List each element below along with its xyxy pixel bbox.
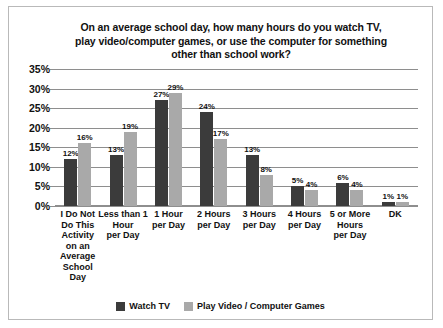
y-tick-label-25%: 25%	[29, 102, 50, 114]
legend-label-video-games: Play Video / Computer Games	[197, 301, 325, 311]
chart-legend: Watch TV Play Video / Computer Games	[9, 301, 432, 311]
bar-value-label: 16%	[77, 133, 93, 142]
bar-value-label: 1%	[383, 192, 395, 201]
chart-title-line-2: play video/computer games, or use the co…	[31, 35, 431, 49]
x-axis-label-line: on an	[49, 241, 106, 252]
x-axis-label-line: per Day	[94, 230, 151, 241]
bar	[200, 112, 213, 206]
bar	[214, 139, 227, 206]
bar	[246, 155, 259, 206]
bar-value-label: 13%	[244, 145, 260, 154]
bar	[305, 190, 318, 206]
bar	[291, 186, 304, 206]
bar-value-label: 24%	[199, 102, 215, 111]
bar-value-label: 27%	[153, 90, 169, 99]
bar-value-label: 13%	[108, 145, 124, 154]
bar-value-label: 19%	[122, 122, 138, 131]
y-tick-mark	[50, 69, 55, 70]
legend-swatch-icon-watch-tv	[116, 302, 125, 311]
bar-value-label: 29%	[167, 83, 183, 92]
bar-value-label: 4%	[351, 180, 363, 189]
bar	[110, 155, 123, 206]
bar	[396, 202, 409, 206]
y-tick-mark	[50, 206, 55, 207]
x-axis-label-line: Average	[49, 251, 106, 262]
bar	[336, 183, 349, 206]
y-tick-mark	[50, 89, 55, 90]
y-tick-mark	[50, 108, 55, 109]
bar-value-label: 1%	[397, 192, 409, 201]
bar	[260, 175, 273, 206]
chart-title-line-3: other than school work?	[31, 48, 431, 62]
bar-value-label: 6%	[337, 173, 349, 182]
gridline-0%	[55, 206, 418, 207]
y-tick-label-0%: 0%	[35, 200, 50, 212]
y-tick-label-5%: 5%	[35, 180, 50, 192]
bar-value-label: 5%	[292, 176, 304, 185]
x-axis-label: DK	[367, 209, 424, 220]
x-axis-label-line: School	[49, 262, 106, 273]
gridline-25%	[55, 108, 418, 109]
bar	[155, 100, 168, 206]
x-axis-label-line: per Day	[321, 230, 378, 241]
bar-value-label: 4%	[306, 180, 318, 189]
bar	[124, 132, 137, 206]
y-tick-label-30%: 30%	[29, 83, 50, 95]
x-axis-label-line: Hours	[321, 220, 378, 231]
bar-value-label: 17%	[213, 129, 229, 138]
y-tick-label-10%: 10%	[29, 161, 50, 173]
plot-area: 0%5%10%15%20%25%30%35% 12%16%13%19%27%29…	[55, 69, 418, 206]
bar	[78, 143, 91, 206]
bar	[169, 93, 182, 207]
legend-swatch-icon-video-games	[184, 302, 193, 311]
chart-frame: On an average school day, how many hours…	[8, 6, 433, 320]
y-tick-label-35%: 35%	[29, 63, 50, 75]
chart-title-line-1: On an average school day, how many hours…	[31, 21, 431, 35]
y-tick-mark	[50, 186, 55, 187]
gridline-35%	[55, 69, 418, 70]
y-tick-mark	[50, 128, 55, 129]
bar	[382, 202, 395, 206]
x-axis-label-line: Day	[49, 272, 106, 283]
bar-value-label: 12%	[63, 149, 79, 158]
y-tick-mark	[50, 167, 55, 168]
legend-item-video-games: Play Video / Computer Games	[184, 301, 325, 311]
bar	[64, 159, 77, 206]
legend-item-watch-tv: Watch TV	[116, 301, 170, 311]
bar-value-label: 8%	[260, 165, 272, 174]
y-tick-label-15%: 15%	[29, 141, 50, 153]
x-axis-label-line: DK	[367, 209, 424, 220]
legend-label-watch-tv: Watch TV	[129, 301, 170, 311]
y-tick-mark	[50, 147, 55, 148]
gridline-20%	[55, 128, 418, 129]
gridline-30%	[55, 89, 418, 90]
y-tick-label-20%: 20%	[29, 122, 50, 134]
bar	[350, 190, 363, 206]
chart-title: On an average school day, how many hours…	[31, 21, 431, 62]
